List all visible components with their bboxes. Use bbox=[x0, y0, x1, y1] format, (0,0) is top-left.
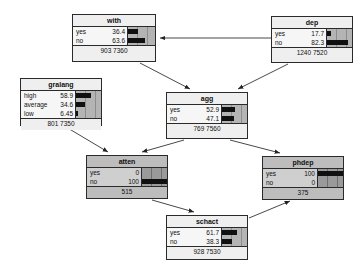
state-value: 52.9 bbox=[201, 105, 221, 114]
belief-network-canvas: withyes36.4no63.6903 7360depyes17.7no82.… bbox=[0, 0, 361, 271]
state-value: 17.7 bbox=[306, 29, 326, 38]
node-title: atten bbox=[87, 156, 167, 168]
state-label: no bbox=[263, 178, 297, 187]
state-row: yes100 bbox=[263, 169, 343, 178]
state-bar-track bbox=[141, 168, 167, 177]
state-row: yes0 bbox=[87, 168, 167, 177]
state-value: 100 bbox=[297, 169, 317, 178]
state-bar-track bbox=[141, 177, 167, 186]
state-bar-fill bbox=[222, 239, 232, 244]
state-label: no bbox=[167, 237, 201, 246]
state-bar-fill bbox=[128, 38, 145, 43]
state-value: 100 bbox=[121, 177, 141, 186]
node-title: with bbox=[73, 15, 155, 27]
state-label: high bbox=[21, 91, 55, 100]
node-state-table: high58.9average34.6low6.45 bbox=[21, 91, 101, 119]
state-row: no63.6 bbox=[73, 36, 155, 45]
state-label: yes bbox=[87, 168, 121, 177]
state-label: yes bbox=[167, 228, 201, 237]
state-value: 0 bbox=[297, 178, 317, 187]
state-bar-fill bbox=[327, 40, 348, 45]
state-bar-track bbox=[75, 91, 101, 100]
state-label: no bbox=[87, 177, 121, 186]
state-value: 61.7 bbox=[201, 228, 221, 237]
state-bar-track bbox=[127, 27, 155, 36]
edge-atten-to-schact bbox=[152, 200, 194, 212]
state-label: yes bbox=[263, 169, 297, 178]
state-value: 38.3 bbox=[201, 237, 221, 246]
edge-with-to-agg bbox=[140, 63, 190, 89]
network-node-agg[interactable]: aggyes52.9no47.1769 7560 bbox=[166, 92, 248, 139]
node-title: agg bbox=[167, 93, 247, 105]
state-row: yes36.4 bbox=[73, 27, 155, 36]
state-value: 0 bbox=[121, 168, 141, 177]
state-label: no bbox=[73, 36, 107, 45]
state-row: no100 bbox=[87, 177, 167, 186]
edge-gralang-to-atten bbox=[66, 127, 108, 152]
node-footer-value: 515 bbox=[87, 187, 167, 198]
node-footer-value: 1240 7520 bbox=[272, 48, 352, 59]
state-row: no82.3 bbox=[272, 38, 352, 47]
node-footer-value: 903 7360 bbox=[73, 46, 155, 57]
state-value: 63.6 bbox=[107, 36, 127, 45]
state-value: 36.4 bbox=[107, 27, 127, 36]
edge-agg-to-atten bbox=[142, 140, 184, 152]
state-value: 82.3 bbox=[306, 38, 326, 47]
node-state-table: yes100no0 bbox=[263, 169, 343, 188]
state-bar-fill bbox=[76, 93, 91, 98]
state-row: high58.9 bbox=[21, 91, 101, 100]
network-node-schact[interactable]: schactyes61.7no38.3928 7530 bbox=[166, 215, 248, 260]
network-node-gralang[interactable]: gralanghigh58.9average34.6low6.45801 735… bbox=[20, 78, 102, 126]
state-bar-fill bbox=[222, 107, 235, 112]
state-row: no47.1 bbox=[167, 114, 247, 123]
state-row: yes17.7 bbox=[272, 29, 352, 38]
state-bar-track bbox=[317, 178, 343, 187]
state-label: average bbox=[21, 100, 55, 109]
state-bar-track bbox=[221, 105, 247, 114]
network-node-atten[interactable]: attenyes0no100515 bbox=[86, 155, 168, 199]
node-footer-value: 375 bbox=[263, 188, 343, 199]
state-label: yes bbox=[272, 29, 306, 38]
node-state-table: yes0no100 bbox=[87, 168, 167, 187]
state-row: yes61.7 bbox=[167, 228, 247, 237]
node-title: schact bbox=[167, 216, 247, 228]
network-node-phdep[interactable]: phdepyes100no0375 bbox=[262, 156, 344, 200]
node-footer-value: 928 7530 bbox=[167, 247, 247, 258]
edge-agg-to-phdep bbox=[230, 140, 280, 153]
edge-dep-to-agg bbox=[238, 64, 288, 89]
state-label: no bbox=[167, 114, 201, 123]
state-bar-track bbox=[326, 29, 352, 38]
state-bar-fill bbox=[222, 116, 234, 121]
state-label: low bbox=[21, 109, 55, 118]
state-label: yes bbox=[73, 27, 107, 36]
network-node-with[interactable]: withyes36.4no63.6903 7360 bbox=[72, 14, 156, 62]
state-bar-track bbox=[221, 237, 247, 246]
state-value: 34.6 bbox=[55, 100, 75, 109]
state-bar-track bbox=[75, 100, 101, 109]
node-footer-value: 769 7560 bbox=[167, 124, 247, 135]
node-state-table: yes61.7no38.3 bbox=[167, 228, 247, 247]
node-state-table: yes17.7no82.3 bbox=[272, 29, 352, 48]
state-row: no38.3 bbox=[167, 237, 247, 246]
state-value: 47.1 bbox=[201, 114, 221, 123]
node-state-table: yes52.9no47.1 bbox=[167, 105, 247, 124]
state-bar-fill bbox=[76, 111, 78, 116]
state-bar-fill bbox=[222, 230, 237, 235]
node-title: dep bbox=[272, 17, 352, 29]
node-footer-value: 801 7350 bbox=[21, 119, 101, 130]
state-bar-track bbox=[317, 169, 343, 178]
state-bar-fill bbox=[318, 171, 343, 176]
state-row: yes52.9 bbox=[167, 105, 247, 114]
state-bar-track bbox=[127, 36, 155, 45]
state-bar-fill bbox=[128, 29, 138, 34]
node-title: phdep bbox=[263, 157, 343, 169]
state-bar-fill bbox=[76, 102, 85, 107]
state-bar-fill bbox=[327, 31, 331, 36]
state-row: no0 bbox=[263, 178, 343, 187]
state-bar-fill bbox=[142, 179, 167, 184]
state-row: average34.6 bbox=[21, 100, 101, 109]
state-value: 6.45 bbox=[55, 109, 75, 118]
state-label: yes bbox=[167, 105, 201, 114]
network-node-dep[interactable]: depyes17.7no82.31240 7520 bbox=[271, 16, 353, 63]
node-title: gralang bbox=[21, 79, 101, 91]
